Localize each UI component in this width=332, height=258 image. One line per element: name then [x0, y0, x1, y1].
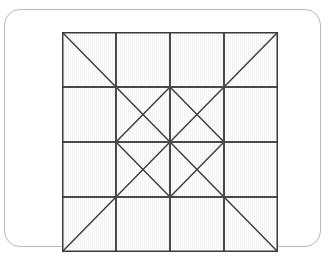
- quilt-block-svg: [62, 32, 278, 252]
- pattern-card: [4, 9, 321, 247]
- quilt-block-diagram: [62, 32, 278, 252]
